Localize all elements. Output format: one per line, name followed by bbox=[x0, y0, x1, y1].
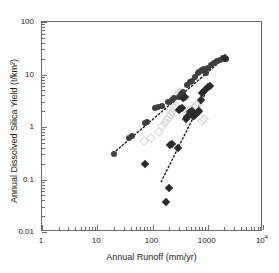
y-tick-label: 100 bbox=[0, 17, 34, 26]
y-tick-minor bbox=[42, 185, 45, 186]
x-tick-major bbox=[208, 225, 209, 230]
x-tick-minor bbox=[75, 227, 76, 230]
x-tick-minor bbox=[246, 227, 247, 230]
x-tick-minor bbox=[140, 227, 141, 230]
y-tick-minor bbox=[42, 30, 45, 31]
y-tick-minor bbox=[42, 129, 45, 130]
data-point-filled-circles bbox=[129, 133, 135, 139]
y-tick-major bbox=[42, 75, 47, 76]
y-tick-minor bbox=[42, 135, 45, 136]
x-tick-minor bbox=[195, 227, 196, 230]
x-tick-minor bbox=[59, 227, 60, 230]
x-tick-minor bbox=[169, 227, 170, 230]
x-tick-minor bbox=[92, 227, 93, 230]
y-tick-minor bbox=[42, 143, 45, 144]
x-tick-minor bbox=[131, 227, 132, 230]
y-tick-major bbox=[42, 232, 47, 233]
y-tick-minor bbox=[42, 90, 45, 91]
x-tick-minor bbox=[191, 227, 192, 230]
plot-area bbox=[42, 22, 261, 230]
x-tick-minor bbox=[254, 227, 255, 230]
y-tick-major bbox=[42, 127, 47, 128]
y-tick-major bbox=[42, 22, 47, 23]
y-tick-minor bbox=[42, 77, 45, 78]
y-tick-minor bbox=[42, 188, 45, 189]
y-tick-minor bbox=[42, 49, 45, 50]
x-tick-minor bbox=[258, 227, 259, 230]
x-tick-label: 10 bbox=[92, 236, 101, 245]
x-tick-minor bbox=[89, 227, 90, 230]
silica-yield-scatter-figure: 1101001000104 0.010.1110100 Annual Runof… bbox=[0, 0, 279, 273]
y-tick-minor bbox=[42, 216, 45, 217]
y-tick-minor bbox=[42, 24, 45, 25]
plot-frame bbox=[41, 21, 262, 231]
y-tick-minor bbox=[42, 83, 45, 84]
x-tick-minor bbox=[95, 227, 96, 230]
x-tick-minor bbox=[260, 227, 261, 230]
x-tick-minor bbox=[147, 227, 148, 230]
y-axis-title: Annual Dissolved Silica Yield (t/km²) bbox=[9, 31, 19, 231]
y-tick-minor bbox=[42, 182, 45, 183]
x-tick-minor bbox=[144, 227, 145, 230]
y-tick-minor bbox=[42, 34, 45, 35]
x-tick-minor bbox=[136, 227, 137, 230]
y-tick-minor bbox=[42, 164, 45, 165]
x-tick-minor bbox=[68, 227, 69, 230]
y-tick-minor bbox=[42, 86, 45, 87]
x-tick-minor bbox=[224, 227, 225, 230]
data-point-filled-circles bbox=[144, 119, 150, 125]
x-tick-minor bbox=[81, 227, 82, 230]
y-tick-minor bbox=[42, 102, 45, 103]
data-point-filled-circles bbox=[111, 151, 117, 157]
x-tick-minor bbox=[241, 227, 242, 230]
x-axis-title: Annual Runoff (mm/yr) bbox=[41, 252, 262, 262]
x-tick-minor bbox=[186, 227, 187, 230]
y-tick-minor bbox=[42, 191, 45, 192]
y-tick-minor bbox=[42, 59, 45, 60]
y-tick-minor bbox=[42, 43, 45, 44]
x-tick-minor bbox=[150, 227, 151, 230]
y-tick-minor bbox=[42, 154, 45, 155]
x-tick-minor bbox=[202, 227, 203, 230]
x-tick-minor bbox=[205, 227, 206, 230]
y-tick-minor bbox=[42, 207, 45, 208]
x-tick-minor bbox=[85, 227, 86, 230]
x-tick-label: 100 bbox=[145, 236, 158, 245]
x-tick-minor bbox=[199, 227, 200, 230]
x-tick-major bbox=[42, 225, 43, 230]
x-tick-minor bbox=[124, 227, 125, 230]
x-tick-minor bbox=[251, 227, 252, 230]
y-tick-minor bbox=[42, 95, 45, 96]
y-tick-minor bbox=[42, 80, 45, 81]
y-tick-minor bbox=[42, 200, 45, 201]
y-tick-minor bbox=[42, 195, 45, 196]
x-tick-major bbox=[97, 225, 98, 230]
x-tick-major bbox=[153, 225, 154, 230]
x-tick-minor bbox=[179, 227, 180, 230]
trendline-layer bbox=[42, 22, 261, 230]
y-tick-minor bbox=[42, 139, 45, 140]
x-tick-major bbox=[263, 225, 264, 230]
y-tick-minor bbox=[42, 27, 45, 28]
x-tick-minor bbox=[114, 227, 115, 230]
y-tick-minor bbox=[42, 148, 45, 149]
y-tick-minor bbox=[42, 38, 45, 39]
x-tick-label: 104 bbox=[256, 236, 268, 245]
y-tick-minor bbox=[42, 111, 45, 112]
x-tick-minor bbox=[234, 227, 235, 230]
x-tick-label: 1 bbox=[39, 236, 43, 245]
x-tick-label: 1000 bbox=[198, 236, 216, 245]
y-tick-minor bbox=[42, 132, 45, 133]
y-tick-major bbox=[42, 180, 47, 181]
